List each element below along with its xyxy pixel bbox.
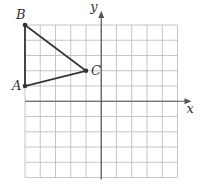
vertex-point-b (23, 23, 28, 28)
x-axis-label: x (187, 101, 195, 116)
y-axis-label: y (89, 0, 98, 14)
coordinate-plane: x y ABC (0, 0, 205, 188)
vertex-point-a (23, 84, 28, 89)
y-axis-arrow-icon (98, 11, 104, 18)
vertex-label-c: C (91, 63, 101, 78)
vertex-point-c (84, 68, 89, 73)
vertex-label-a: A (11, 78, 21, 93)
vertex-label-b: B (15, 7, 26, 22)
axes: x y (25, 0, 195, 180)
